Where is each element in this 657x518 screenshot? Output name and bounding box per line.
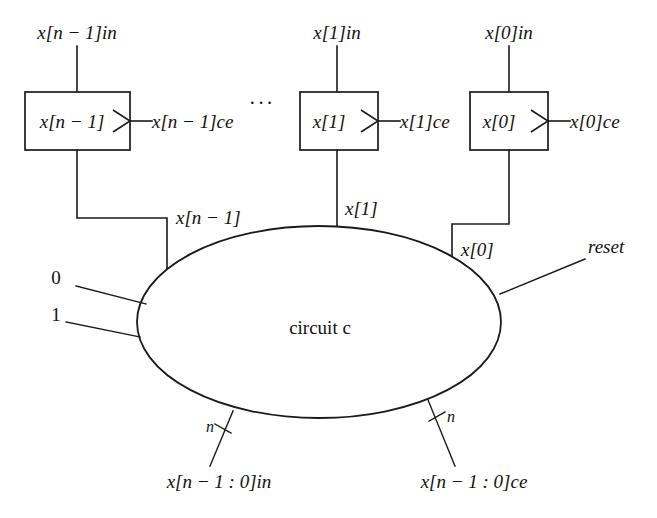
circuit-svg-canvas	[0, 0, 657, 518]
label-register-x-1: x[1]	[313, 112, 346, 131]
label-bus-ce: x[n − 1 : 0]ce	[421, 472, 528, 491]
bus-slash-in-icon	[215, 424, 231, 433]
label-output-x-0: x[0]	[461, 240, 494, 259]
label-bus-width-right: n	[447, 409, 455, 425]
label-register-x-n-1: x[n − 1]	[40, 112, 105, 131]
label-output-x-n-1: x[n − 1]	[176, 208, 241, 227]
label-circuit-c: circuit c	[289, 318, 351, 337]
label-const-one: 1	[51, 305, 61, 324]
label-bus-in: x[n − 1 : 0]in	[167, 472, 272, 491]
label-const-zero: 0	[51, 268, 61, 287]
label-register-x-0: x[0]	[483, 112, 516, 131]
label-x-0-in: x[0]in	[485, 23, 533, 42]
circuit-diagram: x[n − 1]in x[1]in x[0]in x[n − 1] x[1] x…	[0, 0, 657, 518]
label-output-x-1: x[1]	[345, 199, 378, 218]
label-x-1-in: x[1]in	[313, 23, 361, 42]
wire-reset	[500, 259, 585, 294]
label-bus-width-left: n	[206, 419, 214, 435]
wire-const-zero	[76, 286, 146, 304]
label-ce-x-1: x[1]ce	[400, 112, 450, 131]
label-ce-x-0: x[0]ce	[570, 112, 620, 131]
label-x-n-1-in: x[n − 1]in	[37, 23, 116, 42]
label-ce-x-n-1: x[n − 1]ce	[152, 112, 233, 131]
bus-slash-ce-icon	[429, 412, 445, 421]
label-reset: reset	[588, 237, 624, 256]
ellipsis-dots: ···	[249, 92, 275, 115]
wire-output-x-n-1	[77, 150, 167, 270]
wire-const-one	[66, 322, 140, 337]
